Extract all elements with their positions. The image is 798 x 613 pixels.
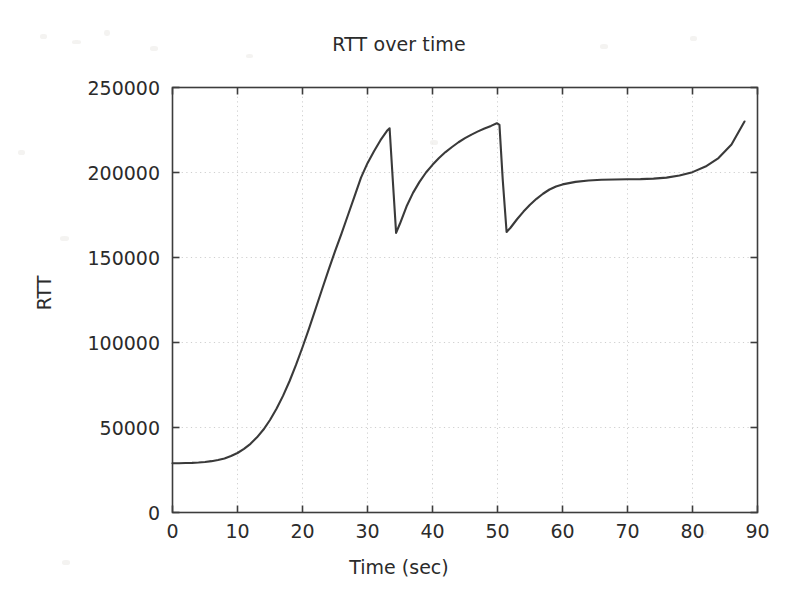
scan-artifact [430, 140, 438, 145]
y-tick-label: 50000 [40, 417, 160, 439]
chart-figure: RTT over time RTT Time (sec) 05000010000… [0, 0, 798, 613]
x-tick-labels: 0102030405060708090 [0, 520, 798, 560]
y-tick-label: 100000 [40, 332, 160, 354]
plot-frame [173, 88, 758, 513]
x-tick-label: 90 [718, 520, 798, 542]
gridlines [173, 88, 758, 513]
y-tick-label: 150000 [40, 247, 160, 269]
y-tick-label: 200000 [40, 162, 160, 184]
scan-artifact [18, 150, 25, 155]
tick-marks [173, 88, 758, 513]
y-tick-label: 250000 [40, 77, 160, 99]
